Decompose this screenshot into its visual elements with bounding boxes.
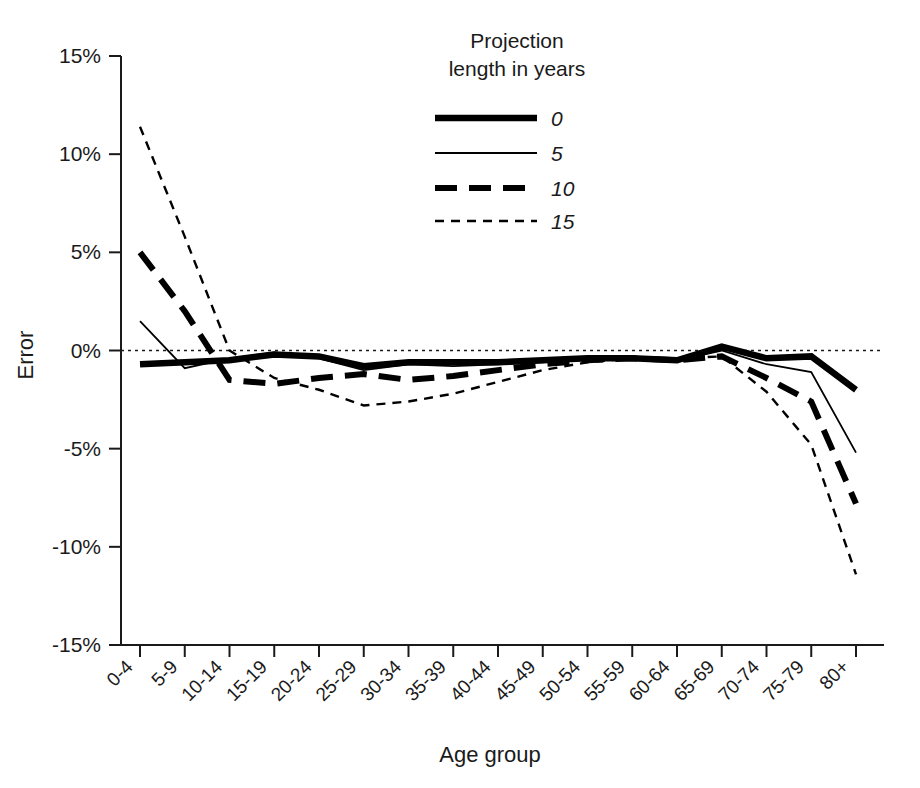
y-tick-label: -15% — [52, 633, 101, 656]
legend-label-10: 10 — [551, 177, 575, 200]
y-axis-title: Error — [13, 331, 38, 380]
x-tick-label: 25-29 — [311, 656, 360, 705]
x-tick-label: 50-54 — [535, 656, 585, 706]
x-tick-label: 45-49 — [490, 656, 539, 705]
x-tick-label: 65-69 — [669, 656, 718, 705]
x-tick-label: 20-24 — [267, 656, 317, 706]
legend-item-0: 0 — [435, 107, 563, 130]
x-tick-label: 35-39 — [401, 656, 450, 705]
chart-figure: 15%10%5%0%-5%-10%-15% 0-45-910-1415-1920… — [0, 0, 920, 788]
y-tick-label: 15% — [59, 44, 101, 67]
y-tick-label: 10% — [59, 142, 101, 165]
x-axis-ticks — [140, 645, 856, 657]
y-tick-label: -10% — [52, 535, 101, 558]
legend-item-15: 15 — [435, 210, 575, 233]
line-chart: 15%10%5%0%-5%-10%-15% 0-45-910-1415-1920… — [0, 0, 920, 788]
x-tick-label: 55-59 — [580, 656, 629, 705]
x-tick-label: 10-14 — [177, 656, 227, 706]
legend-item-10: 10 — [435, 177, 575, 200]
legend: Projection length in years 0 5 10 15 — [435, 29, 585, 233]
y-axis-tick-labels: 15%10%5%0%-5%-10%-15% — [52, 44, 101, 656]
legend-title-line1: Projection — [470, 29, 563, 52]
x-axis-title: Age group — [439, 742, 541, 767]
x-tick-label: 80+ — [815, 656, 853, 694]
x-tick-label: 30-34 — [356, 656, 406, 706]
x-tick-label: 15-19 — [222, 656, 271, 705]
y-tick-label: 5% — [71, 240, 101, 263]
x-tick-label: 5-9 — [147, 656, 181, 690]
x-tick-label: 40-44 — [446, 656, 496, 706]
x-tick-label: 75-79 — [759, 656, 808, 705]
legend-item-5: 5 — [435, 142, 563, 165]
legend-label-5: 5 — [551, 142, 563, 165]
y-tick-label: -5% — [64, 437, 101, 460]
legend-label-0: 0 — [551, 107, 563, 130]
x-tick-label: 0-4 — [103, 656, 138, 691]
y-tick-label: 0% — [71, 339, 101, 362]
y-axis-ticks — [109, 56, 121, 645]
series-line-5 — [140, 321, 856, 453]
legend-label-15: 15 — [551, 210, 575, 233]
x-tick-label: 70-74 — [714, 656, 764, 706]
legend-title-line2: length in years — [449, 57, 586, 80]
x-axis-tick-labels: 0-45-910-1415-1920-2425-2930-3435-3940-4… — [103, 656, 853, 706]
x-tick-label: 60-64 — [625, 656, 675, 706]
